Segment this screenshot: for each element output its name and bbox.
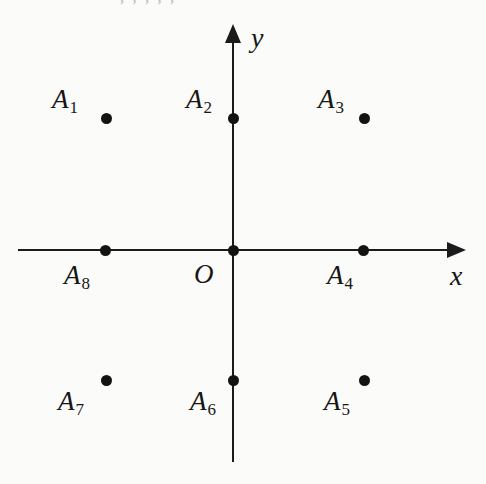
label-a2-subscript: 2 [204, 98, 213, 117]
coordinate-plane-figure: , , , , , y x A1 A2 A3 A4 A5 A6 A7 A8 O [0, 0, 486, 484]
cropped-text: , , , , , [120, 0, 176, 7]
label-a7-letter: A [58, 386, 75, 416]
label-a4-subscript: 4 [345, 274, 354, 293]
point-a1 [101, 113, 112, 124]
label-a7: A7 [58, 388, 83, 415]
label-a2: A2 [186, 86, 211, 113]
label-origin: O [194, 261, 214, 288]
label-a5-subscript: 5 [342, 400, 351, 419]
label-a7-subscript: 7 [76, 400, 85, 419]
y-axis-label: y [251, 24, 263, 52]
point-a2 [228, 113, 239, 124]
label-a5-letter: A [324, 386, 341, 416]
x-axis-line [18, 249, 462, 251]
label-a1: A1 [52, 86, 77, 113]
label-a2-letter: A [186, 84, 203, 114]
y-axis-arrow-icon [225, 24, 241, 43]
point-a4 [358, 245, 369, 256]
point-a3 [359, 113, 370, 124]
cropped-text-line: , , , , , [0, 0, 486, 9]
label-origin-letter: O [194, 259, 214, 289]
label-a3-letter: A [318, 84, 335, 114]
label-a3-subscript: 3 [336, 98, 345, 117]
point-origin [228, 245, 239, 256]
point-a7 [101, 375, 112, 386]
label-a3: A3 [318, 86, 343, 113]
label-a1-letter: A [52, 84, 69, 114]
x-axis-arrow-icon [447, 242, 466, 258]
label-a1-subscript: 1 [70, 98, 79, 117]
label-a4-letter: A [327, 260, 344, 290]
label-a8-letter: A [64, 260, 81, 290]
point-a8 [100, 245, 111, 256]
label-a4: A4 [327, 262, 352, 289]
label-a5: A5 [324, 388, 349, 415]
point-a6 [228, 375, 239, 386]
label-a8: A8 [64, 262, 89, 289]
label-a8-subscript: 8 [82, 274, 91, 293]
point-a5 [359, 375, 370, 386]
x-axis-label: x [450, 262, 462, 290]
label-a6-subscript: 6 [208, 400, 217, 419]
label-a6-letter: A [190, 386, 207, 416]
label-a6: A6 [190, 388, 215, 415]
